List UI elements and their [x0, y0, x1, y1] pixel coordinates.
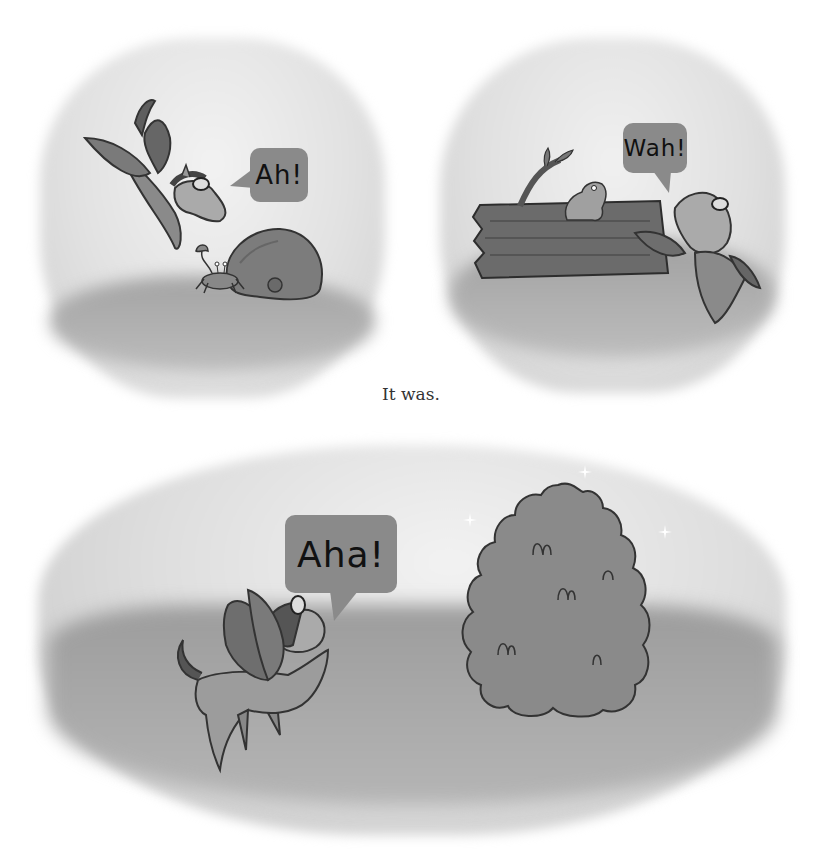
speech-bubble-text: Wah! — [623, 135, 686, 161]
sparkle-icon — [578, 465, 592, 479]
panel-top-left: Ah! — [40, 38, 385, 398]
speech-bubble-text: Ah! — [255, 160, 303, 190]
speech-bubble-tail — [653, 171, 673, 193]
panel-top-right: Wah! — [440, 38, 785, 393]
pegasus-illustration — [80, 93, 250, 263]
pegasus-illustration — [168, 585, 348, 775]
speech-bubble-tail — [330, 591, 358, 621]
frog-illustration — [562, 178, 612, 223]
panel-bottom: Aha! — [38, 445, 786, 835]
speech-bubble-tail — [230, 166, 254, 190]
speech-bubble: Wah! — [623, 123, 687, 173]
caption-text: It was. — [0, 384, 822, 404]
speech-bubble-text: Aha! — [297, 534, 385, 575]
bush-illustration — [453, 480, 673, 725]
pegasus-illustration — [635, 188, 765, 328]
speech-bubble: Aha! — [285, 515, 397, 593]
speech-bubble: Ah! — [250, 148, 308, 202]
